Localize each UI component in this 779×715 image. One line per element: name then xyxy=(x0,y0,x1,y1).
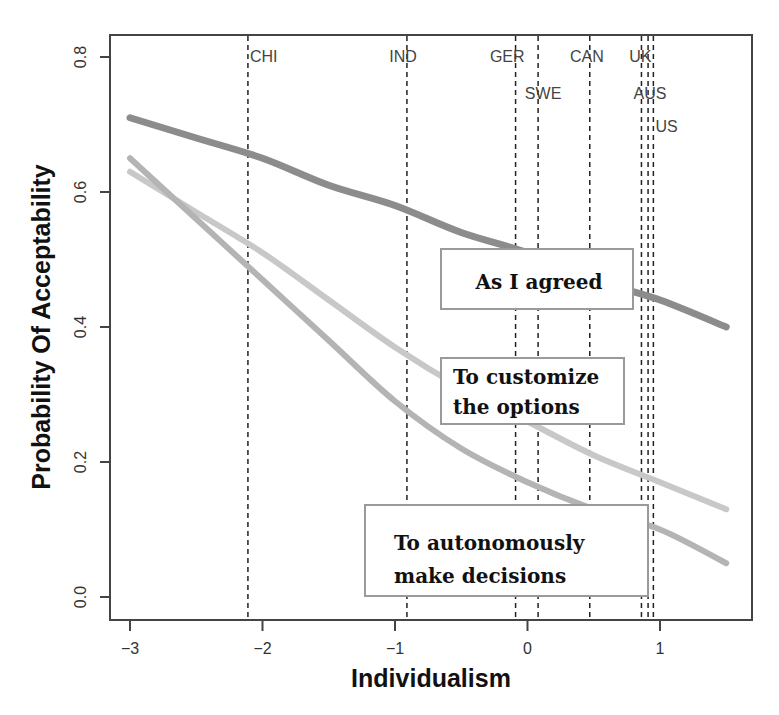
legend-text: To customize xyxy=(453,365,599,389)
x-tick-label: −2 xyxy=(253,640,271,657)
x-tick-label: 1 xyxy=(656,640,665,657)
legend-text: To autonomously xyxy=(394,531,586,555)
y-tick-label: 0.2 xyxy=(72,451,89,473)
country-labels: CHIINDGERSWECANUKAUSUS xyxy=(250,48,678,135)
x-tick-label: −3 xyxy=(121,640,139,657)
x-tick-label: 0 xyxy=(523,640,532,657)
y-axis-title: Probability Of Acceptability xyxy=(27,164,55,490)
country-label-ger: GER xyxy=(490,48,525,65)
country-label-chi: CHI xyxy=(250,48,278,65)
country-label-uk: UK xyxy=(629,48,652,65)
series-line-0 xyxy=(130,118,726,327)
y-tick-label: 0.6 xyxy=(72,181,89,203)
country-label-aus: AUS xyxy=(634,85,667,102)
y-tick-label: 0.0 xyxy=(72,586,89,608)
country-label-swe: SWE xyxy=(525,85,561,102)
country-label-can: CAN xyxy=(570,48,604,65)
x-axis: −3−2−101 xyxy=(121,620,665,657)
y-axis: 0.00.20.40.60.8 xyxy=(72,46,110,608)
legend-text: make decisions xyxy=(394,564,566,588)
legend-text: As I agreed xyxy=(475,270,603,294)
y-tick-label: 0.4 xyxy=(72,316,89,338)
series-lines xyxy=(130,118,726,564)
x-axis-title: Individualism xyxy=(351,664,511,692)
country-label-us: US xyxy=(655,118,677,135)
legend-text: the options xyxy=(453,395,580,419)
y-tick-label: 0.8 xyxy=(72,46,89,68)
x-tick-label: −1 xyxy=(386,640,404,657)
legend-box-1: To customizethe options xyxy=(441,358,624,424)
legend-box-0: As I agreed xyxy=(441,249,633,309)
country-label-ind: IND xyxy=(389,48,417,65)
chart: As I agreedTo customizethe optionsTo aut… xyxy=(0,0,779,715)
legend-box-2: To autonomouslymake decisions xyxy=(365,505,648,596)
